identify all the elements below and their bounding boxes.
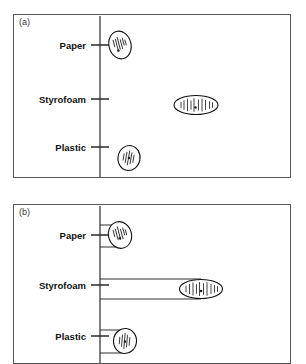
category-label-paper-a: Paper <box>14 40 86 51</box>
figure-title-clipped <box>0 0 306 5</box>
cluster-paper <box>106 29 134 62</box>
cluster-centroid-dot <box>194 106 197 109</box>
category-label-styrofoam-b: Styrofoam <box>14 280 86 291</box>
cluster-centroid-dot <box>200 290 203 293</box>
category-label-plastic-a: Plastic <box>14 142 86 153</box>
cluster-paper <box>105 219 134 251</box>
figure-root: (a) Paper Styrofoam Plastic (b) Paper St… <box>0 0 306 364</box>
cluster-styrofoam <box>174 96 218 115</box>
panel-a: (a) Paper Styrofoam Plastic <box>13 14 291 178</box>
cluster-plastic <box>112 328 137 355</box>
cluster-plastic <box>116 144 142 172</box>
cluster-styrofoam <box>180 280 223 299</box>
category-label-paper-b: Paper <box>14 230 86 241</box>
cluster-ellipse-paper <box>105 219 134 251</box>
category-label-plastic-b: Plastic <box>14 331 86 342</box>
category-label-styrofoam-a: Styrofoam <box>14 94 86 105</box>
cluster-ellipse-paper <box>106 29 134 62</box>
panel-b: (b) Paper Styrofoam Plastic <box>13 204 291 364</box>
